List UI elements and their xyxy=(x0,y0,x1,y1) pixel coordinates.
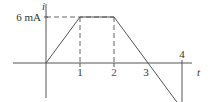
x-axis-label: t xyxy=(197,66,201,78)
x-tick-label: 1 xyxy=(77,66,83,78)
current-waveform-chart: 1234 t i 6 mA6 mA xyxy=(0,0,212,102)
x-tick-label: 4 xyxy=(179,48,185,60)
y-axis-label: i xyxy=(42,0,45,12)
x-tick-label: 2 xyxy=(111,66,117,78)
x-tick-label: 3 xyxy=(143,66,149,78)
y-tick-label: 6 mA xyxy=(16,11,41,23)
